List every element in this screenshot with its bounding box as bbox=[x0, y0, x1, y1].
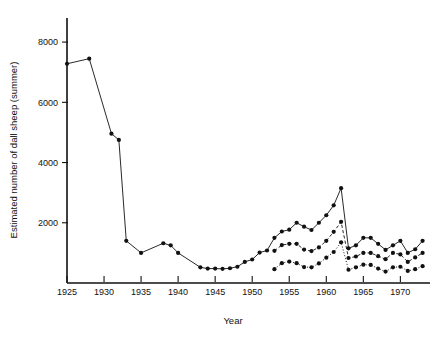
data-point-marker bbox=[391, 265, 395, 269]
data-point-marker bbox=[317, 245, 321, 249]
data-point-marker bbox=[324, 256, 328, 260]
data-point-marker bbox=[420, 239, 424, 243]
data-point-marker bbox=[369, 263, 373, 267]
data-point-marker bbox=[124, 239, 128, 243]
data-point-marker bbox=[302, 225, 306, 229]
data-point-marker bbox=[413, 255, 417, 259]
data-point-marker bbox=[406, 260, 410, 264]
x-tick-label: 1930 bbox=[94, 287, 114, 297]
y-axis-group: 2000400060008000 bbox=[38, 18, 68, 283]
x-axis-title: Year bbox=[223, 315, 242, 326]
data-point-marker bbox=[376, 266, 380, 270]
series-layer bbox=[65, 57, 425, 274]
y-tick-label: 4000 bbox=[38, 158, 58, 168]
data-point-marker bbox=[383, 269, 387, 273]
data-point-marker bbox=[354, 254, 358, 258]
data-point-marker bbox=[213, 266, 217, 270]
data-point-marker bbox=[272, 236, 276, 240]
x-tick-label: 1945 bbox=[205, 287, 225, 297]
data-point-marker bbox=[398, 239, 402, 243]
data-point-marker bbox=[65, 62, 69, 66]
data-point-marker bbox=[295, 261, 299, 265]
x-tick-label: 1955 bbox=[279, 287, 299, 297]
data-point-marker bbox=[117, 138, 121, 142]
data-point-marker bbox=[250, 257, 254, 261]
data-point-marker bbox=[169, 243, 173, 247]
data-point-marker bbox=[280, 261, 284, 265]
dall-sheep-line-chart: 2000400060008000 19251930193519401945195… bbox=[0, 0, 437, 339]
data-point-marker bbox=[339, 220, 343, 224]
data-point-marker bbox=[139, 251, 143, 255]
data-point-marker bbox=[309, 249, 313, 253]
y-tick-label: 8000 bbox=[38, 37, 58, 47]
y-tick-label: 2000 bbox=[38, 218, 58, 228]
data-point-marker bbox=[220, 267, 224, 271]
data-point-marker bbox=[332, 203, 336, 207]
data-point-marker bbox=[287, 260, 291, 264]
data-point-marker bbox=[302, 247, 306, 251]
data-point-marker bbox=[398, 265, 402, 269]
data-point-marker bbox=[309, 265, 313, 269]
data-point-marker bbox=[383, 257, 387, 261]
data-point-marker bbox=[324, 213, 328, 217]
y-axis-title: Estimated number of dall sheep (summer) bbox=[8, 62, 19, 239]
x-axis-group: 1925193019351940194519501955196019651970 bbox=[57, 276, 430, 297]
x-tick-label: 1925 bbox=[57, 287, 77, 297]
data-point-marker bbox=[265, 248, 269, 252]
data-point-marker bbox=[287, 228, 291, 232]
data-point-marker bbox=[272, 249, 276, 253]
data-point-marker bbox=[332, 250, 336, 254]
data-point-marker bbox=[339, 186, 343, 190]
data-point-marker bbox=[346, 256, 350, 260]
y-tick-label: 6000 bbox=[38, 98, 58, 108]
data-point-marker bbox=[413, 267, 417, 271]
x-tick-label: 1960 bbox=[316, 287, 336, 297]
data-point-marker bbox=[406, 251, 410, 255]
data-point-marker bbox=[258, 250, 262, 254]
data-point-marker bbox=[391, 243, 395, 247]
data-point-marker bbox=[346, 268, 350, 272]
data-point-marker bbox=[354, 265, 358, 269]
data-point-marker bbox=[420, 251, 424, 255]
data-point-marker bbox=[369, 251, 373, 255]
data-point-marker bbox=[413, 247, 417, 251]
data-point-marker bbox=[280, 243, 284, 247]
data-point-marker bbox=[280, 229, 284, 233]
data-point-marker bbox=[109, 132, 113, 136]
data-point-marker bbox=[420, 264, 424, 268]
data-point-marker bbox=[361, 236, 365, 240]
data-point-marker bbox=[376, 242, 380, 246]
series-total-estimate bbox=[65, 57, 425, 271]
data-point-marker bbox=[272, 267, 276, 271]
data-point-marker bbox=[398, 252, 402, 256]
x-tick-label: 1970 bbox=[390, 287, 410, 297]
data-point-marker bbox=[295, 242, 299, 246]
data-point-marker bbox=[235, 265, 239, 269]
data-point-marker bbox=[295, 221, 299, 225]
data-point-marker bbox=[361, 263, 365, 267]
data-point-marker bbox=[406, 269, 410, 273]
x-tick-label: 1940 bbox=[168, 287, 188, 297]
data-point-marker bbox=[391, 251, 395, 255]
data-point-marker bbox=[324, 239, 328, 243]
y-axis-ticks: 2000400060008000 bbox=[38, 37, 68, 228]
data-point-marker bbox=[346, 246, 350, 250]
x-tick-label: 1950 bbox=[242, 287, 262, 297]
data-point-marker bbox=[302, 265, 306, 269]
data-point-marker bbox=[383, 248, 387, 252]
data-point-marker bbox=[317, 221, 321, 225]
data-point-marker bbox=[161, 241, 165, 245]
data-point-marker bbox=[354, 243, 358, 247]
data-point-marker bbox=[228, 266, 232, 270]
data-point-marker bbox=[332, 230, 336, 234]
data-point-marker bbox=[87, 57, 91, 61]
x-tick-label: 1935 bbox=[131, 287, 151, 297]
data-point-marker bbox=[287, 242, 291, 246]
data-point-marker bbox=[309, 228, 313, 232]
data-point-marker bbox=[317, 261, 321, 265]
data-point-marker bbox=[198, 265, 202, 269]
x-axis-ticks: 1925193019351940194519501955196019651970 bbox=[57, 276, 410, 297]
data-point-marker bbox=[376, 254, 380, 258]
data-point-marker bbox=[206, 266, 210, 270]
chart-container: 2000400060008000 19251930193519401945195… bbox=[0, 0, 437, 339]
